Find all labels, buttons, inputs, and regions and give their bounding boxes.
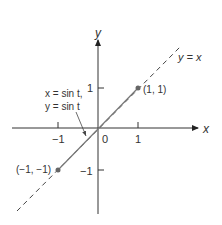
- y-tick-label-neg1: −1: [80, 165, 93, 177]
- point-label-neg1-neg1: (−1, −1): [16, 164, 51, 175]
- x-axis-label: x: [202, 122, 210, 136]
- x-tick-label-neg1: −1: [52, 133, 65, 145]
- annotation-pointer: [76, 112, 86, 136]
- y-axis-label: y: [94, 26, 102, 40]
- point-label-1-1: (1, 1): [143, 84, 166, 95]
- x-tick-label-1: 1: [135, 133, 141, 145]
- y-tick-label-1: 1: [87, 82, 93, 94]
- point-1-1: [136, 86, 141, 91]
- point-neg1-neg1: [56, 168, 61, 173]
- origin-label: 0: [102, 133, 108, 145]
- dashed-line-label: y = x: [177, 51, 202, 63]
- parametric-diagram: y x 0 −1 1 1 −1 y = x (1, 1) (−1, −1) x …: [0, 0, 222, 225]
- curve-label-line2: y = sin t: [45, 101, 80, 112]
- curve-label-line1: x = sin t,: [45, 88, 83, 99]
